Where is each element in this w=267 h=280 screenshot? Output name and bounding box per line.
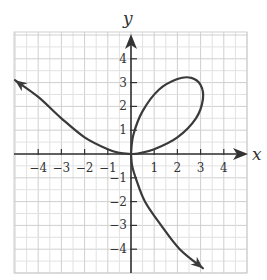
y-axis-label: y <box>122 8 133 28</box>
y-tick-label: 1 <box>119 123 127 137</box>
y-tick-label: 3 <box>119 76 127 90</box>
y-tick-label: −3 <box>109 218 127 232</box>
y-tick-label: −4 <box>109 242 127 256</box>
x-tick-label: −2 <box>76 161 94 175</box>
x-tick-label: 4 <box>220 161 228 175</box>
x-tick-label: −4 <box>29 161 47 175</box>
y-tick-label: 4 <box>119 52 127 66</box>
axes: x y <box>14 8 262 273</box>
y-tick-label: −2 <box>109 195 127 209</box>
left-branch-arrow-icon <box>15 80 28 91</box>
x-axis-label: x <box>252 144 262 164</box>
graph: x y −4−3−2−11234−4−3−2−11234 <box>0 0 267 280</box>
y-tick-label: −1 <box>109 171 127 185</box>
x-tick-label: 2 <box>174 161 182 175</box>
x-tick-label: −3 <box>53 161 71 175</box>
x-tick-label: 1 <box>150 161 158 175</box>
curve-lower-branch <box>131 154 203 268</box>
y-tick-label: 2 <box>119 99 127 113</box>
x-tick-label: 3 <box>197 161 205 175</box>
